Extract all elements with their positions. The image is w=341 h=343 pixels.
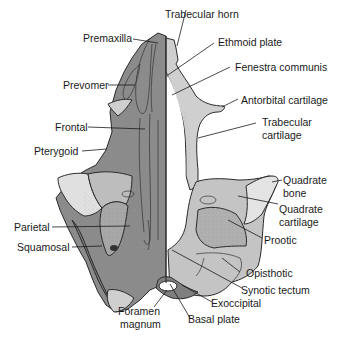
label-squamosal: Squamosal bbox=[17, 241, 70, 253]
right-chondrocranium bbox=[156, 38, 278, 299]
label-premaxilla: Premaxilla bbox=[83, 32, 132, 44]
label-fenestra-communis: Fenestra communis bbox=[235, 61, 327, 73]
label-quadrate-cartilage-line2: cartilage bbox=[279, 216, 319, 228]
left-dermal-skull bbox=[56, 33, 166, 312]
label-prootic: Prootic bbox=[264, 234, 297, 246]
label-prevomer: Prevomer bbox=[63, 79, 109, 91]
label-exoccipital: Exoccipital bbox=[211, 297, 261, 309]
label-foramen-magnum-line1: Foramen bbox=[118, 305, 160, 317]
label-synotic-tectum: Synotic tectum bbox=[241, 284, 310, 296]
label-basal-plate: Basal plate bbox=[188, 313, 240, 325]
label-parietal: Parietal bbox=[14, 221, 50, 233]
label-ethmoid-plate: Ethmoid plate bbox=[218, 36, 282, 48]
label-antorbital-cartilage: Antorbital cartilage bbox=[241, 94, 328, 106]
skull-diagram: Premaxilla Prevomer Frontal Pterygoid Pa… bbox=[0, 0, 341, 343]
label-pterygoid: Pterygoid bbox=[34, 145, 79, 157]
label-frontal: Frontal bbox=[55, 121, 88, 133]
label-quadrate-bone-line1: Quadrate bbox=[283, 174, 327, 186]
label-trabecular-horn: Trabecular horn bbox=[165, 8, 239, 20]
label-trabecular-cartilage-line1: Trabecular bbox=[262, 116, 312, 128]
label-quadrate-cartilage-line1: Quadrate bbox=[279, 203, 323, 215]
label-quadrate-bone-line2: bone bbox=[283, 187, 307, 199]
label-opisthotic: Opisthotic bbox=[246, 267, 293, 279]
label-trabecular-cartilage-line2: cartilage bbox=[262, 129, 302, 141]
label-foramen-magnum-line2: magnum bbox=[120, 318, 161, 330]
